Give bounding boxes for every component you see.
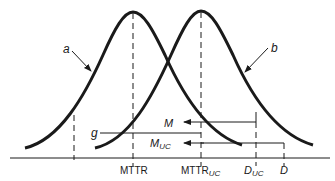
curve-b [95,11,313,148]
d-uc-axis-label: DUC [244,164,264,178]
b-pointer-line [245,48,268,72]
a-pointer-line [72,51,91,71]
mttr-uc-axis-label: MTTRUC [181,165,221,178]
mttr-axis-label: MTTR [120,165,148,176]
curve-b-label: b [271,41,278,55]
curve-a-label: a [63,42,70,56]
d-axis-label: D [280,164,288,176]
mttr-distribution-diagram: a b g M MUC MTTR MTTRUC DUC D [0,0,335,181]
m-label: M [164,117,174,129]
m-uc-label: MUC [150,137,171,151]
g-label: g [91,126,98,140]
